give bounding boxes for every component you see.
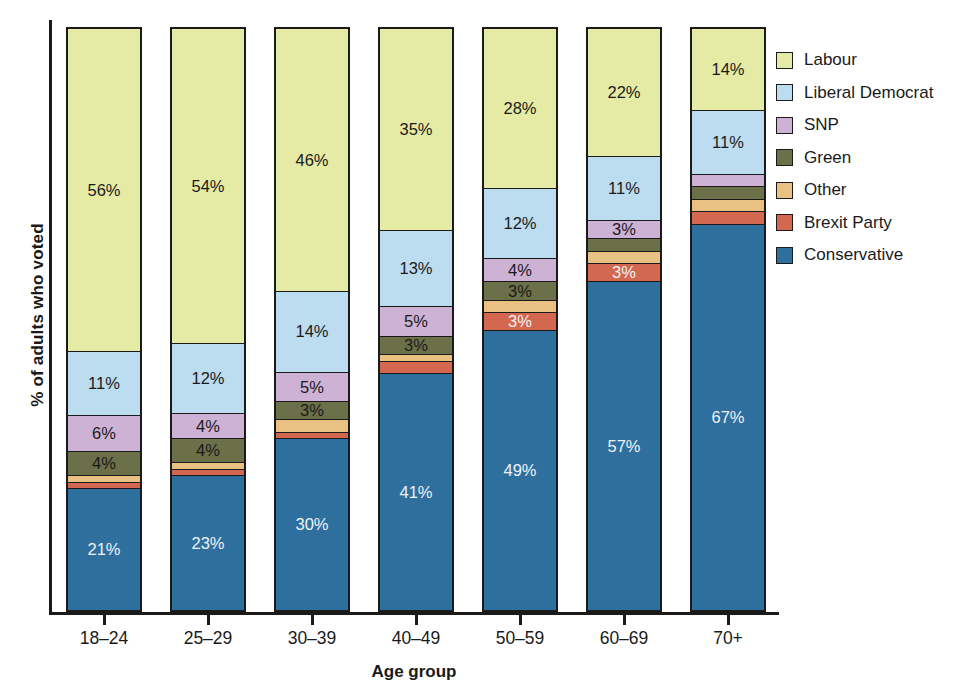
bar-group[interactable]: 46%14%5%3%30% bbox=[274, 20, 350, 612]
bar-segment-label: 4% bbox=[508, 262, 532, 279]
legend-swatch-icon bbox=[776, 149, 793, 166]
bar-segment-label: 11% bbox=[608, 180, 640, 197]
legend-label: Brexit Party bbox=[804, 213, 892, 233]
bar-segment[interactable] bbox=[68, 476, 140, 483]
bar-segment[interactable]: 3% bbox=[380, 337, 452, 355]
bar-segment[interactable]: 14% bbox=[276, 292, 348, 373]
bar-segment[interactable]: 49% bbox=[484, 331, 556, 610]
bar-segment-label: 56% bbox=[87, 182, 120, 199]
bar-segment[interactable]: 5% bbox=[276, 373, 348, 402]
bar-segment[interactable]: 54% bbox=[172, 29, 244, 344]
bar-segment[interactable] bbox=[276, 433, 348, 440]
bar-segment-label: 4% bbox=[92, 455, 116, 472]
x-tick-mark bbox=[519, 615, 522, 625]
bar-segment[interactable]: 4% bbox=[68, 452, 140, 476]
bar-segment[interactable]: 3% bbox=[588, 221, 660, 239]
bar-segment-label: 4% bbox=[196, 418, 220, 435]
bar-segment[interactable]: 28% bbox=[484, 29, 556, 189]
bar-segment[interactable]: 3% bbox=[484, 313, 556, 331]
x-axis-line bbox=[49, 612, 779, 615]
legend-item[interactable]: Liberal Democrat bbox=[776, 77, 966, 110]
bar-segment[interactable]: 23% bbox=[172, 476, 244, 610]
bar-segment[interactable] bbox=[276, 420, 348, 432]
bar-segment[interactable] bbox=[692, 175, 764, 188]
bar-segment[interactable] bbox=[68, 483, 140, 490]
bar-segment[interactable] bbox=[588, 252, 660, 265]
bar-segment-label: 21% bbox=[87, 541, 120, 558]
x-tick-mark bbox=[415, 615, 418, 625]
bar-segment[interactable]: 21% bbox=[68, 489, 140, 610]
bar-segment[interactable]: 30% bbox=[276, 439, 348, 610]
bar-segment[interactable]: 56% bbox=[68, 29, 140, 352]
bar-segment[interactable]: 35% bbox=[380, 29, 452, 231]
bar-segment[interactable] bbox=[588, 239, 660, 252]
x-tick-label: 70+ bbox=[668, 628, 788, 649]
bar-segment[interactable] bbox=[172, 463, 244, 470]
bar-segment[interactable] bbox=[692, 200, 764, 213]
stacked-bar-chart: % of adults who voted 56%11%6%4%21%54%12… bbox=[0, 0, 967, 695]
x-tick-label: 60–69 bbox=[564, 628, 684, 649]
bar-segment[interactable]: 5% bbox=[380, 307, 452, 337]
bar-segment[interactable] bbox=[692, 187, 764, 200]
bar-segment[interactable]: 6% bbox=[68, 416, 140, 452]
bar-segment[interactable]: 22% bbox=[588, 29, 660, 157]
bar-group[interactable]: 54%12%4%4%23% bbox=[170, 20, 246, 612]
bar-segment[interactable]: 4% bbox=[172, 439, 244, 463]
bar-segment[interactable] bbox=[380, 362, 452, 375]
bar-segment[interactable]: 67% bbox=[692, 225, 764, 610]
x-tick-mark bbox=[311, 615, 314, 625]
bar-segment-label: 5% bbox=[300, 379, 324, 396]
bar-segment-label: 3% bbox=[612, 264, 636, 281]
legend-item[interactable]: Conservative bbox=[776, 239, 966, 272]
bar-segment[interactable]: 11% bbox=[588, 157, 660, 221]
bar-segment[interactable] bbox=[380, 355, 452, 362]
bar-group[interactable]: 28%12%4%3%3%49% bbox=[482, 20, 558, 612]
bar-segment[interactable]: 12% bbox=[172, 344, 244, 415]
bar-segment[interactable]: 13% bbox=[380, 231, 452, 307]
bar-segment-label: 3% bbox=[508, 283, 532, 300]
bar-segment[interactable]: 3% bbox=[276, 402, 348, 420]
bar-segment[interactable]: 4% bbox=[172, 414, 244, 438]
x-tick-label: 25–29 bbox=[148, 628, 268, 649]
legend-swatch-icon bbox=[776, 117, 793, 134]
bar-group[interactable]: 22%11%3%3%57% bbox=[586, 20, 662, 612]
x-tick-label: 18–24 bbox=[44, 628, 164, 649]
bar-segment-label: 57% bbox=[607, 438, 640, 455]
bar-segment[interactable]: 41% bbox=[380, 374, 452, 610]
bar-group[interactable]: 56%11%6%4%21% bbox=[66, 20, 142, 612]
bar-segment[interactable]: 3% bbox=[484, 282, 556, 300]
bar-segment-label: 67% bbox=[711, 409, 744, 426]
x-tick-mark bbox=[207, 615, 210, 625]
bar-segment[interactable]: 11% bbox=[692, 111, 764, 175]
bar-segment[interactable] bbox=[484, 301, 556, 313]
bar-segment-label: 13% bbox=[399, 260, 432, 277]
bar-segment[interactable]: 3% bbox=[588, 264, 660, 282]
bar-segment-label: 54% bbox=[191, 178, 224, 195]
bar-segment[interactable] bbox=[692, 212, 764, 225]
bar-segment[interactable] bbox=[172, 470, 244, 477]
chart-legend: LabourLiberal DemocratSNPGreenOtherBrexi… bbox=[776, 44, 966, 272]
bar-segment[interactable]: 46% bbox=[276, 29, 348, 292]
bar-segment[interactable]: 12% bbox=[484, 189, 556, 258]
bar-segment[interactable]: 57% bbox=[588, 282, 660, 610]
legend-swatch-icon bbox=[776, 84, 793, 101]
bar-segment[interactable]: 4% bbox=[484, 259, 556, 283]
bar-segment[interactable]: 11% bbox=[68, 352, 140, 416]
bar-group[interactable]: 14%11%67% bbox=[690, 20, 766, 612]
bar-segment-label: 28% bbox=[503, 100, 536, 117]
legend-item[interactable]: Labour bbox=[776, 44, 966, 77]
legend-label: Conservative bbox=[804, 245, 903, 265]
legend-item[interactable]: SNP bbox=[776, 109, 966, 142]
bar-segment-label: 46% bbox=[295, 152, 328, 169]
legend-swatch-icon bbox=[776, 182, 793, 199]
bar-segment[interactable]: 14% bbox=[692, 29, 764, 111]
legend-item[interactable]: Brexit Party bbox=[776, 207, 966, 240]
bar-segment-label: 14% bbox=[295, 323, 328, 340]
bar-segment-label: 12% bbox=[191, 370, 224, 387]
legend-item[interactable]: Other bbox=[776, 174, 966, 207]
bar-segment-label: 49% bbox=[503, 462, 536, 479]
legend-item[interactable]: Green bbox=[776, 142, 966, 175]
bar-group[interactable]: 35%13%5%3%41% bbox=[378, 20, 454, 612]
legend-label: Green bbox=[804, 148, 851, 168]
legend-label: Other bbox=[804, 180, 847, 200]
